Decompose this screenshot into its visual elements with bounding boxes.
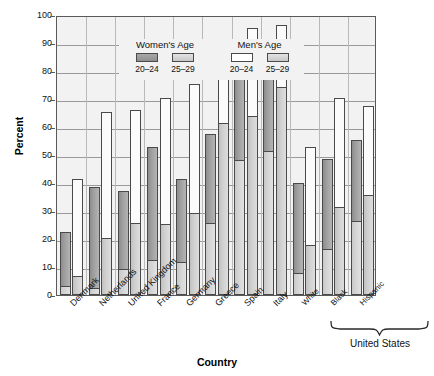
- bar-men-2-upper-segment: [131, 111, 140, 224]
- bar-men-10-lower-segment: [364, 195, 373, 294]
- legend-swatch-men-20-24: [231, 53, 253, 62]
- y-axis-tick-mark: [50, 72, 55, 73]
- category-separator: [348, 17, 349, 295]
- plot-area: Women's Age 20–24 25–29 Men's Age 20–24: [56, 16, 376, 296]
- bar-men-1-upper-segment: [102, 113, 111, 240]
- bar-women-3-upper-segment: [148, 148, 157, 263]
- y-axis-tick-mark: [50, 44, 55, 45]
- category-separator: [115, 17, 116, 295]
- bar-men-4-lower-segment: [190, 213, 199, 294]
- bar-men-8: [305, 147, 316, 295]
- bar-women-10: [351, 140, 362, 295]
- bar-men-3-upper-segment: [161, 99, 170, 226]
- bar-women-7-lower-segment: [264, 151, 273, 294]
- gridline: [57, 101, 375, 102]
- bar-women-5: [205, 134, 216, 295]
- bar-women-10-lower-segment: [352, 221, 361, 294]
- bar-women-0: [60, 232, 71, 295]
- legend: Women's Age 20–24 25–29 Men's Age 20–24: [119, 39, 304, 80]
- bar-men-4-upper-segment: [190, 85, 199, 215]
- bar-women-0-upper-segment: [61, 233, 70, 288]
- legend-label-women-20-24: 20–24: [132, 64, 162, 74]
- y-axis-tick-label: 70: [22, 95, 52, 104]
- united-states-bracket-label: United States: [332, 338, 428, 349]
- bar-women-10-upper-segment: [352, 141, 361, 224]
- y-axis-tick-label: 20: [22, 235, 52, 244]
- bar-men-2-lower-segment: [131, 223, 140, 294]
- y-axis-tick-mark: [50, 16, 55, 17]
- legend-women: Women's Age 20–24 25–29: [119, 39, 211, 74]
- bar-women-4: [176, 179, 187, 295]
- x-axis-title: Country: [0, 356, 434, 368]
- bar-women-2-upper-segment: [119, 192, 128, 270]
- bar-women-5-upper-segment: [206, 135, 215, 225]
- bar-women-8-upper-segment: [294, 184, 303, 275]
- bar-men-9: [334, 98, 345, 295]
- bar-women-8-lower-segment: [294, 273, 303, 294]
- bar-men-1-lower-segment: [102, 238, 111, 294]
- y-axis-tick-label: 60: [22, 123, 52, 132]
- bar-men-5-lower-segment: [219, 123, 228, 294]
- y-axis-tick-label: 80: [22, 67, 52, 76]
- legend-label-men-25-29: 25–29: [263, 64, 293, 74]
- bar-men-1: [101, 112, 112, 295]
- y-axis-tick-mark: [50, 240, 55, 241]
- bar-men-10: [363, 106, 374, 295]
- bar-men-10-upper-segment: [364, 107, 373, 197]
- legend-swatch-women-20-24: [136, 53, 158, 62]
- bar-men-9-upper-segment: [335, 99, 344, 210]
- legend-swatch-women-25-29: [172, 53, 194, 62]
- bar-men-8-upper-segment: [306, 148, 315, 247]
- bar-men-7-lower-segment: [277, 87, 286, 294]
- y-axis-tick-mark: [50, 100, 55, 101]
- y-axis-tick-label: 50: [22, 151, 52, 160]
- bar-men-5: [218, 67, 229, 295]
- bar-men-4: [189, 84, 200, 295]
- category-separator: [319, 17, 320, 295]
- chart-container: Percent 0102030405060708090100 Women's A…: [0, 0, 434, 376]
- category-separator: [86, 17, 87, 295]
- y-axis-tick-mark: [50, 128, 55, 129]
- legend-label-women-25-29: 25–29: [168, 64, 198, 74]
- y-axis-title: Percent: [13, 101, 25, 171]
- bar-women-6-lower-segment: [235, 160, 244, 294]
- bar-women-9-lower-segment: [323, 249, 332, 294]
- y-axis-tick-label: 10: [22, 263, 52, 272]
- bar-women-6: [234, 60, 245, 295]
- y-axis-tick-label: 100: [22, 11, 52, 20]
- y-axis-tick-label: 30: [22, 207, 52, 216]
- legend-men: Men's Age 20–24 25–29: [215, 39, 304, 74]
- bar-men-9-lower-segment: [335, 207, 344, 294]
- united-states-brace-icon: [330, 320, 430, 336]
- bar-women-9: [322, 159, 333, 295]
- y-axis-tick-label: 90: [22, 39, 52, 48]
- y-axis-tick-mark: [50, 268, 55, 269]
- y-axis-tick-mark: [50, 156, 55, 157]
- y-axis-tick-mark: [50, 296, 55, 297]
- legend-men-title: Men's Age: [215, 39, 304, 50]
- bar-women-4-upper-segment: [177, 180, 186, 264]
- y-axis-tick-label: 0: [22, 291, 52, 300]
- bar-women-8: [293, 183, 304, 295]
- legend-women-title: Women's Age: [119, 39, 211, 50]
- bar-men-0-upper-segment: [73, 180, 82, 278]
- y-axis-tick-mark: [50, 212, 55, 213]
- bar-men-0: [72, 179, 83, 295]
- y-axis-tick-mark: [50, 184, 55, 185]
- bar-men-6-lower-segment: [248, 116, 257, 294]
- y-axis-tick-label: 40: [22, 179, 52, 188]
- legend-swatch-men-25-29: [267, 53, 289, 62]
- bar-women-0-lower-segment: [61, 286, 70, 294]
- bar-women-9-upper-segment: [323, 160, 332, 251]
- legend-label-men-20-24: 20–24: [227, 64, 257, 74]
